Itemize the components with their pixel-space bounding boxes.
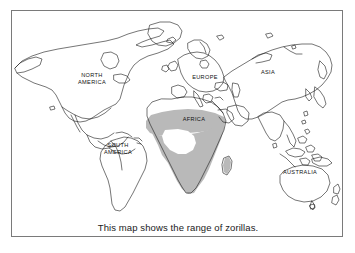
world-map (12, 11, 342, 236)
map-figure-frame: NORTH AMERICA SOUTH AMERICA EUROPE AFRIC… (11, 10, 343, 237)
map-caption: This map shows the range of zorillas. (12, 222, 344, 233)
continent-australia (280, 165, 340, 210)
continent-asia (224, 44, 332, 167)
figure-root: NORTH AMERICA SOUTH AMERICA EUROPE AFRIC… (0, 0, 355, 253)
zorilla-range-shading (146, 109, 231, 194)
world-map-svg (12, 11, 342, 236)
